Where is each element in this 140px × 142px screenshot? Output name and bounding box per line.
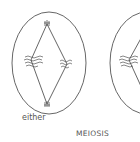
left-cell — [12, 12, 86, 114]
meiosis-diagram — [0, 0, 140, 142]
label-meiosis: MEIOSIS — [76, 129, 109, 138]
chromosomes-right-cell-icon — [119, 56, 138, 67]
right-cell — [110, 12, 140, 114]
label-either: either — [22, 113, 46, 122]
centriole-top-icon — [44, 20, 50, 26]
chromosomes-left-icon — [24, 56, 43, 67]
spindle — [31, 24, 67, 104]
centriole-bottom-icon — [44, 101, 50, 107]
cell-membrane — [110, 12, 140, 114]
